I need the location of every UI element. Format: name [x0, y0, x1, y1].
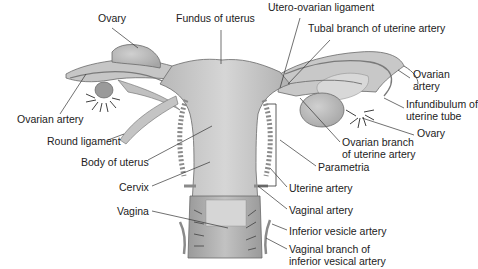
- right-fimbriae-icon: [346, 110, 374, 128]
- label-tubal-branch: Tubal branch of uterine artery: [308, 22, 445, 34]
- right-adnexa: [278, 52, 418, 128]
- label-uterine-artery: Uterine artery: [289, 182, 353, 194]
- label-ovarian-artery-right: Ovarian artery: [413, 68, 450, 92]
- label-fundus-of-uterus: Fundus of uterus: [176, 12, 255, 24]
- uterus: [160, 59, 290, 204]
- label-body-of-uterus: Body of uterus: [81, 156, 149, 168]
- label-ovary-left: Ovary: [98, 12, 126, 24]
- label-utero-ovarian-ligament: Utero-ovarian ligament: [268, 1, 374, 13]
- label-ovary-right: Ovary: [417, 127, 445, 139]
- label-round-ligament: Round ligament: [47, 135, 121, 147]
- label-infundibulum: Infundibulum of uterine tube: [406, 98, 478, 122]
- label-ovarian-artery-left: Ovarian artery: [17, 113, 84, 125]
- label-vagina: Vagina: [117, 205, 149, 217]
- label-inferior-vesicle-artery: Inferior vesicle artery: [289, 225, 386, 237]
- label-cervix: Cervix: [119, 181, 149, 193]
- label-ovarian-branch: Ovarian branch of uterine artery: [342, 136, 416, 160]
- label-parametria: Parametria: [318, 161, 369, 173]
- label-vaginal-artery: Vaginal artery: [289, 204, 353, 216]
- left-adnexa: [66, 45, 182, 144]
- label-vaginal-branch: Vaginal branch of inferior vesical arter…: [289, 243, 386, 267]
- vagina: [180, 186, 270, 258]
